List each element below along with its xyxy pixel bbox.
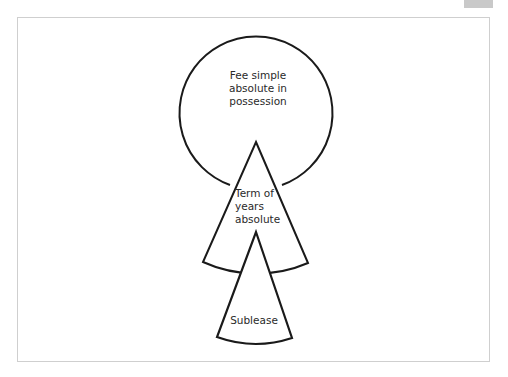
fee-simple-label-line-3: possession (229, 95, 286, 107)
fee-simple-label-line-2: absolute in (229, 82, 287, 94)
term-of-years-label-line-3: absolute (235, 213, 280, 225)
estate-hierarchy-diagram: Fee simple absolute in possession Term o… (0, 0, 508, 377)
term-of-years-label-line-1: Term of (234, 187, 274, 199)
fee-simple-label-line-1: Fee simple (230, 69, 286, 81)
term-of-years-label-line-2: years (235, 200, 264, 212)
sublease-label: Sublease (230, 314, 278, 326)
